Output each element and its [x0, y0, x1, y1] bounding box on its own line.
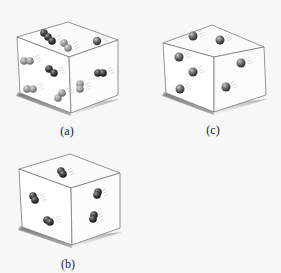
atom	[59, 170, 67, 178]
atom	[189, 68, 198, 77]
atom	[64, 44, 72, 52]
atom	[76, 85, 84, 93]
atom	[31, 196, 39, 204]
atom	[29, 85, 37, 93]
atom	[48, 37, 56, 45]
atom	[46, 218, 54, 226]
atom	[50, 69, 58, 77]
panel-label-b: (b)	[61, 257, 75, 272]
cube-b	[18, 154, 122, 248]
atom	[175, 53, 184, 62]
atom	[26, 57, 34, 65]
atom	[222, 83, 231, 92]
panel-label-a: (a)	[60, 124, 73, 139]
atom	[237, 59, 246, 68]
atom	[58, 89, 66, 97]
atom	[93, 191, 101, 199]
atom	[93, 37, 101, 45]
atom	[99, 69, 107, 77]
cube-a	[16, 22, 120, 116]
figure-canvas	[0, 0, 281, 273]
atom	[189, 32, 198, 41]
atom	[216, 36, 225, 45]
panel-label-c: (c)	[206, 123, 219, 138]
atom	[176, 85, 185, 94]
cube-right-face	[214, 47, 266, 112]
cube-c	[162, 25, 268, 115]
atom	[89, 215, 97, 223]
